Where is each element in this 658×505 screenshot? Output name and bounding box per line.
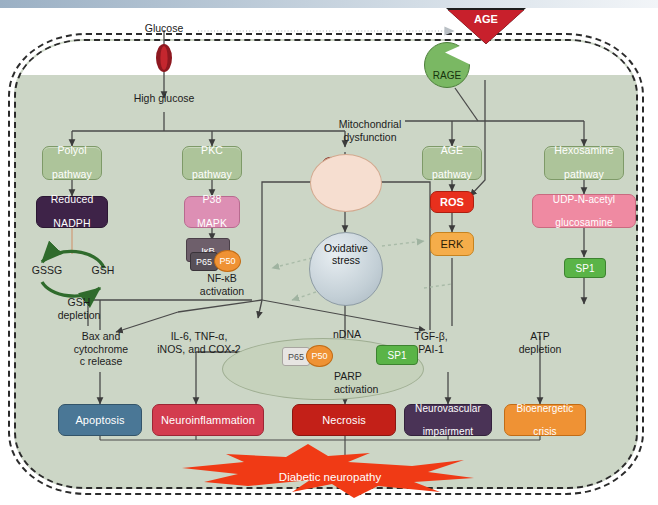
parp-line1: PARP [334,370,362,382]
window-header-strip [0,0,658,8]
nfkb-line2: activation [200,285,244,297]
parp-activation-label: PARP activation [334,370,410,395]
nucleus-sp1: SP1 [376,345,418,365]
node-hexosamine-pathway: Hexosamine pathway [544,146,624,180]
neuroinflammation-label: Neuroinflammation [159,414,257,426]
necrosis-label: Necrosis [320,414,368,426]
gsh-depletion-label: GSH depletion [44,296,114,321]
outcome-neuroinflammation: Neuroinflammation [152,404,264,436]
hex-line2: pathway [552,169,615,181]
gshdep-line1: GSH [68,296,91,308]
oxi-line1: Oxidative [324,242,368,254]
oxidative-stress-label: Oxidative stress [310,242,382,266]
oxidative-stress-node: Oxidative stress [309,232,383,306]
parp-line2: activation [334,383,378,395]
apoptosis-label: Apoptosis [73,414,126,426]
node-sp1: SP1 [564,258,606,278]
oxi-line2: stress [332,254,360,266]
outcome-apoptosis: Apoptosis [58,404,142,436]
nadph-line2: NADPH [49,218,96,230]
bax-line2: cytochrome [74,343,128,355]
hex-line1: Hexosamine [552,145,615,157]
bioenergetic-line1: Bioenergetic [515,403,576,414]
atp-line1: ATP [530,330,550,342]
diabetic-neuropathy-burst: Diabetic neuropathy [182,452,478,504]
neurovascular-line2: impairment [413,426,483,437]
bioenergetic-line2: crisis [515,426,576,437]
nadph-line1: Reduced [49,194,96,206]
sp1-label: SP1 [576,263,595,274]
pkc-line2: pathway [190,169,234,181]
rage-receptor: RAGE [424,42,470,88]
mediators-line2: iNOS, and COX-2 [157,343,240,355]
bax-cytochrome-label: Bax and cytochrome c release [58,330,144,368]
p38-line1: P38 [195,194,229,206]
node-age-pathway: AGE pathway [422,146,482,180]
diabetic-neuropathy-label: Diabetic neuropathy [182,471,478,483]
ros-label: ROS [438,196,466,208]
p50-label: P50 [219,256,235,266]
diagram-canvas: Glucose High glucose AGE RAGE Polyol pat… [0,0,658,505]
gshdep-line2: depletion [58,309,101,321]
polyol-line1: Polyol [50,145,94,157]
outcome-neurovascular-impairment: Neurovascular impairment [404,404,492,436]
nucleus-p65-label: P65 [288,352,304,362]
node-pkc-pathway: PKC pathway [182,146,242,180]
nfkb-line1: NF-κB [207,272,237,284]
rage-label: RAGE [424,70,470,81]
mediators-line1: IL-6, TNF-α, [171,330,228,342]
node-udp-n-acetyl-glucosamine: UDP-N-acetyl glucosamine [532,194,636,228]
outcome-bioenergetic-crisis: Bioenergetic crisis [504,404,586,436]
neurovascular-line1: Neurovascular [413,403,483,414]
node-erk: ERK [430,232,474,256]
header-spacer [0,8,658,11]
node-p50: P50 [214,250,241,272]
mitochondrion-icon [310,154,382,212]
udp-line1: UDP-N-acetyl [551,194,617,205]
erk-label: ERK [439,238,466,250]
node-reduced-nadph: Reduced NADPH [36,196,108,228]
agepath-line2: pathway [430,169,474,181]
mitochondrial-dysfunction-label: Mitochondrial dysfunction [320,118,420,143]
pkc-line1: PKC [190,145,234,157]
outcome-necrosis: Necrosis [292,404,396,436]
gsh-label: GSH [84,264,122,277]
atp-depletion-label: ATP depletion [506,330,574,355]
tgf-line1: TGF-β, [414,330,447,342]
age-ligand: AGE [448,10,524,44]
gssg-label: GSSG [26,264,68,277]
p38-line2: MAPK [195,218,229,230]
nucleus-p50-label: P50 [311,351,327,361]
high-glucose-label: High glucose [108,92,220,105]
nucleus-sp1-label: SP1 [388,350,407,361]
bax-line3: c release [80,355,123,367]
atp-line2: depletion [519,343,562,355]
polyol-line2: pathway [50,169,94,181]
p65-label: P65 [196,257,212,267]
node-p38-mapk: P38 MAPK [184,196,240,228]
bax-line1: Bax and [82,330,121,342]
udp-line2: glucosamine [551,217,617,228]
agepath-line1: AGE [430,145,474,157]
mito-line1: Mitochondrial [339,118,401,130]
mito-line2: dysfunction [343,131,396,143]
glucose-label: Glucose [132,22,196,35]
tgf-line2: PAI-1 [418,343,443,355]
nfkb-activation-label: NF-κB activation [182,272,262,297]
nucleus-p50: P50 [306,345,333,367]
age-label: AGE [448,13,524,25]
node-polyol-pathway: Polyol pathway [42,146,102,180]
node-ros: ROS [430,191,474,213]
